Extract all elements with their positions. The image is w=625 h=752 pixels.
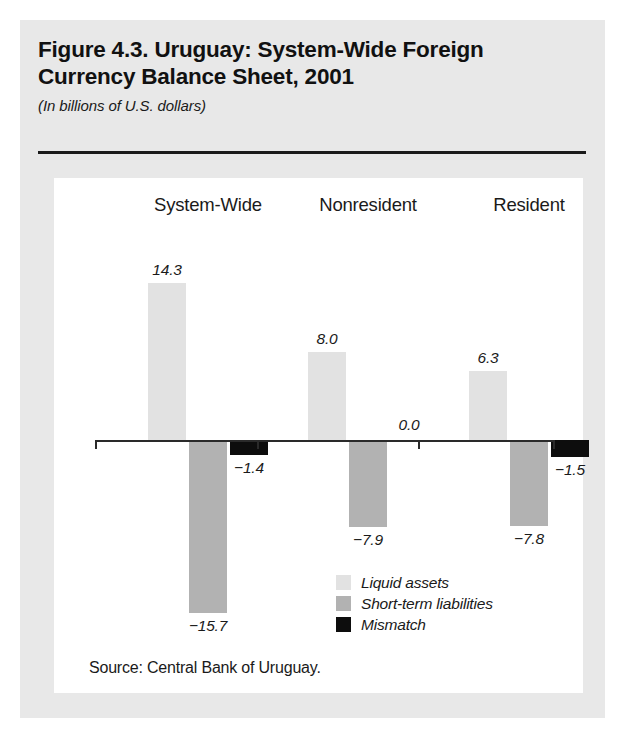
zero-axis-line xyxy=(95,440,555,442)
value-label-short-term-liabilities-resident: −7.8 xyxy=(479,530,579,548)
value-label-mismatch-nonresident: 0.0 xyxy=(359,416,459,434)
legend-item-liquid-assets: Liquid assets xyxy=(336,572,493,593)
legend-label-mismatch: Mismatch xyxy=(361,616,426,634)
legend-swatch-mismatch xyxy=(336,617,351,632)
figure-subtitle: (In billions of U.S. dollars) xyxy=(38,97,586,114)
value-label-mismatch-system-wide: −1.4 xyxy=(199,459,299,477)
value-label-mismatch-resident: −1.5 xyxy=(520,461,620,479)
legend-swatch-liquid-assets xyxy=(336,575,351,590)
axis-tick-1 xyxy=(257,440,259,449)
figure-container: Figure 4.3. Uruguay: System-Wide Foreign… xyxy=(20,20,605,718)
legend-item-mismatch: Mismatch xyxy=(336,614,493,635)
plot-area: 14.38.06.3−15.7−7.9−7.8−1.40.0−1.5 xyxy=(54,178,583,693)
axis-tick-0 xyxy=(95,440,97,449)
bar-mismatch-resident xyxy=(551,440,589,457)
bar-short-term-liabilities-nonresident xyxy=(349,440,387,527)
value-label-short-term-liabilities-system-wide: −15.7 xyxy=(158,617,258,635)
axis-tick-3 xyxy=(553,440,555,449)
chart-plot-panel: System-Wide Nonresident Resident 14.38.0… xyxy=(54,178,583,693)
bar-short-term-liabilities-resident xyxy=(510,440,548,526)
bar-liquid-assets-resident xyxy=(469,371,507,440)
legend-label-short-term-liabilities: Short-term liabilities xyxy=(361,595,493,613)
bar-liquid-assets-nonresident xyxy=(308,352,346,440)
value-label-short-term-liabilities-nonresident: −7.9 xyxy=(318,531,418,549)
figure-title-line2: Currency Balance Sheet, 2001 xyxy=(38,64,354,89)
figure-title: Figure 4.3. Uruguay: System-Wide Foreign… xyxy=(38,36,586,91)
legend-swatch-short-term-liabilities xyxy=(336,596,351,611)
axis-tick-2 xyxy=(418,440,420,449)
figure-title-line1: Figure 4.3. Uruguay: System-Wide Foreign xyxy=(38,37,484,62)
bar-liquid-assets-system-wide xyxy=(148,283,186,440)
title-divider xyxy=(38,151,586,154)
value-label-liquid-assets-nonresident: 8.0 xyxy=(277,330,377,348)
legend-label-liquid-assets: Liquid assets xyxy=(361,574,449,592)
source-note: Source: Central Bank of Uruguay. xyxy=(89,659,321,677)
bar-mismatch-system-wide xyxy=(230,440,268,455)
title-block: Figure 4.3. Uruguay: System-Wide Foreign… xyxy=(38,36,586,114)
value-label-liquid-assets-system-wide: 14.3 xyxy=(117,261,217,279)
value-label-liquid-assets-resident: 6.3 xyxy=(438,349,538,367)
chart-legend: Liquid assets Short-term liabilities Mis… xyxy=(336,572,493,635)
legend-item-short-term-liabilities: Short-term liabilities xyxy=(336,593,493,614)
